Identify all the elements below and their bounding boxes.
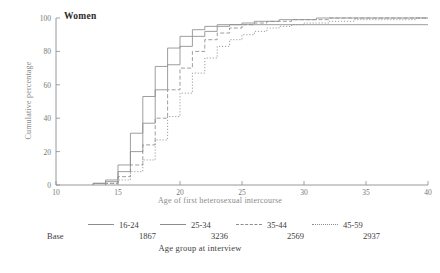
legend-line-swatch	[88, 224, 114, 225]
x-tick-label: 10	[44, 188, 68, 197]
series-line-16-24	[93, 25, 428, 185]
axis-ticks	[56, 18, 428, 185]
legend-item-25-34: 25-34	[160, 218, 211, 231]
x-tick-label: 30	[292, 188, 316, 197]
x-tick-label: 35	[354, 188, 378, 197]
legend-item-label: 25-34	[191, 220, 211, 230]
base-value-35-44: 2569	[264, 231, 304, 241]
y-tick-label: 100	[29, 14, 51, 23]
y-tick-label: 80	[29, 47, 51, 56]
y-tick-label: 60	[29, 81, 51, 90]
base-value-45-59: 2937	[340, 231, 380, 241]
base-value-25-34: 3236	[188, 231, 228, 241]
x-tick-label: 40	[416, 188, 440, 197]
legend-line-swatch	[160, 224, 186, 225]
base-value-16-24: 1867	[116, 231, 156, 241]
y-tick-label: 40	[29, 114, 51, 123]
legend-item-label: 35-44	[267, 220, 287, 230]
series-line-35-44	[106, 18, 428, 185]
legend-line-swatch	[236, 224, 262, 225]
legend-line-swatch	[312, 224, 338, 225]
x-tick-label: 25	[230, 188, 254, 197]
legend-item-35-44: 35-44	[236, 218, 287, 231]
chart-legend: 16-2425-3435-4445-59	[0, 218, 440, 231]
legend-item-45-59: 45-59	[312, 218, 363, 231]
axis-lines	[56, 18, 428, 185]
chart-figure: Women Cumulative percentage Age of first…	[0, 0, 440, 273]
x-tick-label: 20	[168, 188, 192, 197]
series-line-25-34	[93, 18, 428, 185]
legend-item-16-24: 16-24	[88, 218, 139, 231]
legend-base-row: Base 1867323625692937	[0, 231, 440, 243]
x-axis-label: Age of first heterosexual intercourse	[0, 196, 440, 205]
plot-title: Women	[64, 11, 97, 21]
series-line-45-59	[106, 18, 428, 185]
legend-item-label: 45-59	[343, 220, 363, 230]
legend-item-label: 16-24	[119, 220, 139, 230]
y-tick-label: 20	[29, 148, 51, 157]
x-tick-label: 15	[106, 188, 130, 197]
legend-caption: Age group at interview	[0, 243, 400, 253]
base-label: Base	[47, 231, 64, 241]
